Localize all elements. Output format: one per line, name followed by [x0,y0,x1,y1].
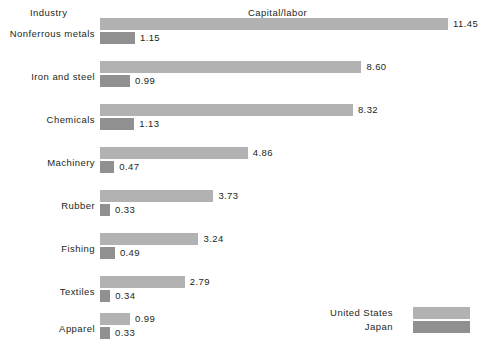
bar-jp [100,290,110,302]
bar-value-label: 0.33 [115,327,135,339]
bar-row-us: 8.60 [100,61,387,73]
legend-label-united-states: United States [330,307,393,319]
bar-row-jp: 0.34 [100,290,135,302]
legend-swatch-japan [413,321,470,333]
bar-value-label: 4.86 [253,147,273,159]
legend-label-japan: Japan [365,321,393,333]
bar-group: Textiles2.790.34 [0,276,496,302]
bar-jp [100,32,135,44]
legend-swatch-united-states [413,307,470,319]
bar-row-us: 11.45 [100,18,478,30]
bar-value-label: 0.99 [135,313,155,325]
bar-jp [100,327,110,339]
bar-group: Iron and steel8.600.99 [0,61,496,87]
category-label: Rubber [61,200,95,211]
bar-row-us: 0.99 [100,313,155,325]
bar-row-jp: 0.49 [100,247,140,259]
bar-row-jp: 0.47 [100,161,139,173]
category-label: Apparel [59,323,95,334]
category-label: Machinery [47,157,95,168]
bar-jp [100,204,110,216]
category-label: Nonferrous metals [10,28,95,39]
category-label: Fishing [61,243,95,254]
bar-row-us: 8.32 [100,104,378,116]
bar-row-jp: 1.15 [100,32,160,44]
bar-us [100,61,361,73]
bar-group: Chemicals8.321.13 [0,104,496,130]
bar-value-label: 0.99 [135,75,155,87]
bar-jp [100,75,130,87]
bar-value-label: 3.73 [218,190,238,202]
bar-row-us: 3.24 [100,233,224,245]
category-label: Chemicals [47,114,95,125]
bar-value-label: 2.79 [190,276,210,288]
bar-us [100,313,130,325]
bar-value-label: 0.47 [119,161,139,173]
industry-column-header: Industry [30,7,67,18]
bar-value-label: 0.34 [115,290,135,302]
bar-row-us: 4.86 [100,147,273,159]
bar-jp [100,161,114,173]
bar-value-label: 8.32 [358,104,378,116]
bar-us [100,18,448,30]
bar-value-label: 11.45 [453,18,478,30]
bar-row-jp: 0.33 [100,204,135,216]
bar-value-label: 1.15 [140,32,160,44]
bar-group: Fishing3.240.49 [0,233,496,259]
category-label: Textiles [60,286,95,297]
bar-row-us: 3.73 [100,190,238,202]
legend-item-united-states: United States [330,307,480,319]
bar-row-jp: 0.99 [100,75,155,87]
capital-labor-bar-chart: Industry Capital/labor Nonferrous metals… [0,0,496,354]
bar-value-label: 1.13 [139,118,159,130]
bar-value-label: 8.60 [366,61,386,73]
bar-value-label: 3.24 [203,233,223,245]
category-label: Iron and steel [31,71,95,82]
bar-row-jp: 1.13 [100,118,159,130]
bar-jp [100,247,115,259]
bar-value-label: 0.33 [115,204,135,216]
bar-group: Machinery4.860.47 [0,147,496,173]
bar-us [100,147,248,159]
legend-item-japan: Japan [330,321,480,333]
bar-row-us: 2.79 [100,276,210,288]
bar-group: Nonferrous metals11.451.15 [0,18,496,44]
bar-value-label: 0.49 [120,247,140,259]
bar-us [100,190,213,202]
bar-jp [100,118,134,130]
bar-us [100,276,185,288]
bar-row-jp: 0.33 [100,327,135,339]
bar-us [100,233,198,245]
bar-group: Rubber3.730.33 [0,190,496,216]
bar-us [100,104,353,116]
capital-labor-column-header: Capital/labor [248,7,307,18]
